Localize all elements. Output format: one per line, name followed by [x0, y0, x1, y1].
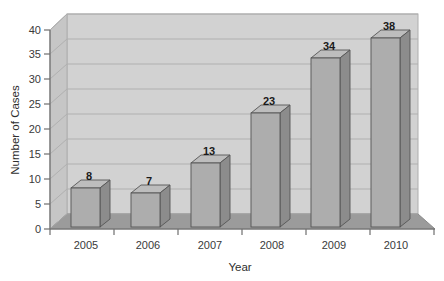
- y-axis-title: Number of Cases: [9, 85, 21, 175]
- bar-2007[interactable]: [191, 155, 230, 227]
- chart-canvas: 0 5 10 15 20 25 30 35 40 Number of Cases: [0, 0, 444, 281]
- bar-front-face: [71, 188, 100, 227]
- x-tick-label: 2006: [136, 239, 160, 251]
- y-axis: [44, 30, 50, 229]
- bar-side-face: [340, 50, 350, 227]
- x-tick-label: 2010: [384, 239, 408, 251]
- x-tick-label: 2008: [260, 239, 284, 251]
- bar-side-face: [400, 30, 410, 227]
- bar-front-face: [251, 113, 280, 227]
- bar-2010[interactable]: [371, 30, 410, 227]
- x-tick-label: 2005: [74, 239, 98, 251]
- bar-value-label: 38: [383, 20, 395, 32]
- bar-value-label: 8: [86, 170, 92, 182]
- y-tick-label: 0: [35, 223, 41, 235]
- bar-value-label: 34: [323, 40, 336, 52]
- y-tick-label: 25: [29, 98, 41, 110]
- bar-value-label: 23: [263, 95, 275, 107]
- x-axis: [50, 229, 435, 235]
- x-tick-label: 2009: [322, 239, 346, 251]
- y-tick-label: 10: [29, 173, 41, 185]
- bar-side-face: [280, 105, 290, 227]
- bar-side-face: [220, 155, 230, 227]
- y-tick-label: 35: [29, 48, 41, 60]
- bar-front-face: [371, 38, 400, 227]
- y-tick-label: 20: [29, 123, 41, 135]
- bar-2008[interactable]: [251, 105, 290, 227]
- bar-front-face: [311, 58, 340, 227]
- y-tick-label: 30: [29, 73, 41, 85]
- bar-front-face: [131, 193, 160, 227]
- bar-side-face: [160, 185, 170, 227]
- bar-side-face: [100, 180, 110, 227]
- x-tick-labels: 2005 2006 2007 2008 2009 2010: [74, 239, 408, 251]
- x-tick-label: 2007: [198, 239, 222, 251]
- bar-front-face: [191, 163, 220, 227]
- bar-value-label: 7: [146, 175, 152, 187]
- y-tick-label: 15: [29, 148, 41, 160]
- y-tick-labels: 0 5 10 15 20 25 30 35 40: [29, 24, 41, 235]
- bar-value-label: 13: [203, 145, 215, 157]
- bar-chart-figure: 0 5 10 15 20 25 30 35 40 Number of Cases: [0, 0, 444, 281]
- x-axis-title: Year: [228, 261, 251, 273]
- y-tick-label: 5: [35, 198, 41, 210]
- y-tick-label: 40: [29, 24, 41, 36]
- bar-2006[interactable]: [131, 185, 170, 227]
- bar-2005[interactable]: [71, 180, 110, 227]
- bar-2009[interactable]: [311, 50, 350, 227]
